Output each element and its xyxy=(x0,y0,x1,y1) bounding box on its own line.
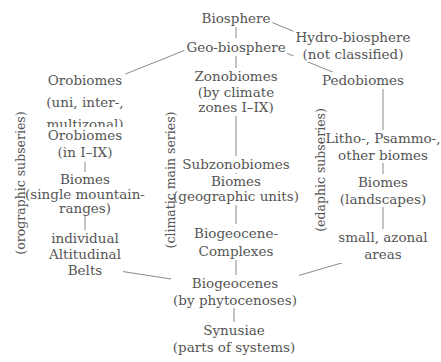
node-geo-biosphere: Geo-biosphere xyxy=(184,39,287,56)
node-label: Subzonobiomes xyxy=(182,156,289,173)
node-sublabel: zones I–IX) xyxy=(194,100,277,116)
node-sublabel: (landscapes) xyxy=(340,191,426,208)
node-sublabel: (uni, inter-, xyxy=(46,91,123,113)
node-litho-psammo: Litho-, Psammo-, other biomes xyxy=(324,130,441,163)
node-label: Pedobiomes xyxy=(322,72,404,89)
node-biogeocene-complexes: Biogeocene- Complexes xyxy=(192,224,280,260)
node-sublabel: Belts xyxy=(49,262,121,278)
node-label: small, azonal xyxy=(338,229,427,246)
node-label: Hydro-biosphere xyxy=(296,29,411,46)
node-subzonobiomes: Subzonobiomes xyxy=(180,156,291,173)
edge-geo-orobiomes xyxy=(118,47,193,77)
node-orobiomes-zonal: Orobiomes (uni, inter-, multizonal) xyxy=(44,69,125,135)
node-label: Biogeocene- xyxy=(194,224,278,242)
node-sublabel: (geographic units) xyxy=(173,189,299,204)
node-biosphere: Biosphere xyxy=(199,10,272,27)
node-label: Litho-, Psammo-, xyxy=(326,130,441,147)
node-label: Biosphere xyxy=(201,10,270,27)
node-pedobiomes: Pedobiomes xyxy=(320,72,406,89)
label-orographic-subseries: (orographic subseries) xyxy=(13,111,28,254)
node-altitudinal-belts: individual Altitudinal Belts xyxy=(47,230,123,278)
node-biomes-landscapes: Biomes (landscapes) xyxy=(338,174,428,207)
node-sublabel: Complexes xyxy=(194,242,278,260)
node-label: Synusiae xyxy=(173,322,295,339)
node-sublabel: (not classified) xyxy=(296,46,411,63)
node-sublabel: (single mountain- xyxy=(25,187,145,202)
node-hydro-biosphere: Hydro-biosphere (not classified) xyxy=(294,29,413,62)
node-sublabel: (by climate xyxy=(194,85,277,101)
node-label: Orobiomes xyxy=(48,127,122,144)
node-sublabel: other biomes xyxy=(326,147,441,164)
node-sublabel: ranges) xyxy=(25,201,145,216)
node-label: Zonobiomes xyxy=(194,69,277,85)
node-sublabel: areas xyxy=(338,246,427,263)
label-edaphic-subseries: (edaphic subseries) xyxy=(313,108,328,232)
node-biomes-mountain: Biomes (single mountain- ranges) xyxy=(23,172,147,216)
node-sublabel: (in I–IX) xyxy=(48,144,122,161)
node-zonobiomes: Zonobiomes (by climate zones I–IX) xyxy=(192,69,279,116)
node-label: Biomes xyxy=(340,174,426,191)
node-label: Biogeocenes xyxy=(173,275,297,292)
label-climatic-main-series: (climatic main series) xyxy=(163,112,178,249)
node-label: Biomes xyxy=(173,174,299,189)
node-sublabel: (parts of systems) xyxy=(173,339,295,356)
node-sublabel: Altitudinal xyxy=(49,246,121,262)
node-synusiae: Synusiae (parts of systems) xyxy=(171,322,297,355)
node-biomes-geographic: Biomes (geographic units) xyxy=(171,174,301,204)
node-label: Biomes xyxy=(25,172,145,187)
node-label: Geo-biosphere xyxy=(186,39,285,56)
node-biogeocenes: Biogeocenes (by phytocenoses) xyxy=(171,275,299,308)
biome-hierarchy-diagram: Biosphere Hydro-biosphere (not classifie… xyxy=(0,0,441,362)
node-sublabel: (by phytocenoses) xyxy=(173,292,297,309)
node-label: Orobiomes xyxy=(46,69,123,91)
node-label: individual xyxy=(49,230,121,246)
node-orobiomes-in: Orobiomes (in I–IX) xyxy=(46,127,124,160)
node-small-azonal: small, azonal areas xyxy=(336,229,429,263)
